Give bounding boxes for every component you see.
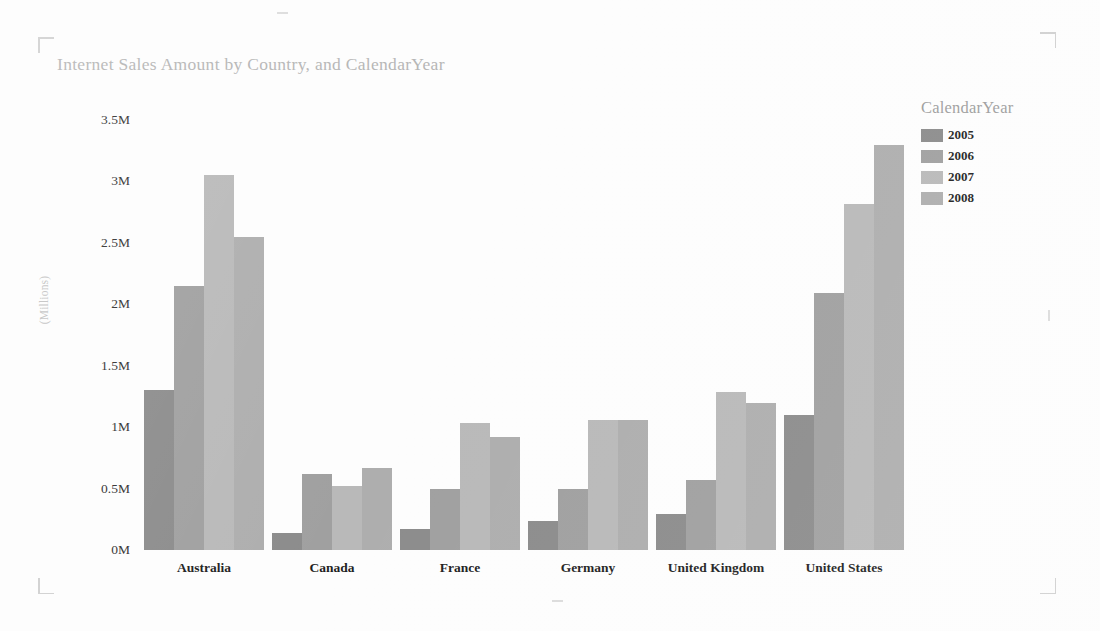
y-axis-tick: 0.5M: [60, 481, 130, 497]
bar-united-states-2005[interactable]: [784, 415, 814, 550]
y-axis-tick: 3.5M: [60, 112, 130, 128]
legend-title: CalendarYear: [921, 98, 1086, 118]
legend-label: 2005: [948, 127, 974, 143]
bar-australia-2008[interactable]: [234, 237, 264, 550]
bar-united-kingdom-2005[interactable]: [656, 514, 686, 550]
y-axis-tick: 1M: [60, 419, 130, 435]
legend: CalendarYear 2005200620072008: [921, 98, 1086, 211]
legend-label: 2006: [948, 148, 974, 164]
legend-items: 2005200620072008: [921, 127, 1086, 206]
bar-canada-2005[interactable]: [272, 533, 302, 550]
y-axis-tick: 0M: [60, 542, 130, 558]
bar-france-2008[interactable]: [490, 437, 520, 550]
edge-tick-bottom: [552, 600, 563, 602]
y-axis-tick: 3M: [60, 173, 130, 189]
crop-mark-top-right: [1040, 32, 1056, 48]
chart-page: Internet Sales Amount by Country, and Ca…: [0, 0, 1100, 631]
chart-title: Internet Sales Amount by Country, and Ca…: [57, 54, 445, 75]
bar-germany-2007[interactable]: [588, 420, 618, 550]
x-axis-label-united-states: United States: [764, 560, 924, 576]
edge-tick-top: [277, 12, 288, 14]
plot-area: AustraliaCanadaFranceGermanyUnited Kingd…: [140, 120, 908, 550]
crop-mark-top-left: [38, 37, 54, 53]
legend-item-2007[interactable]: 2007: [921, 169, 1086, 185]
bar-united-states-2007[interactable]: [844, 204, 874, 550]
bar-group: [652, 120, 780, 550]
crop-mark-bottom-right: [1040, 578, 1056, 594]
bar-united-kingdom-2007[interactable]: [716, 392, 746, 550]
legend-swatch-icon: [921, 171, 943, 184]
bar-united-states-2006[interactable]: [814, 293, 844, 550]
bar-germany-2006[interactable]: [558, 489, 588, 550]
legend-item-2006[interactable]: 2006: [921, 148, 1086, 164]
bar-group: [780, 120, 908, 550]
bar-australia-2007[interactable]: [204, 175, 234, 550]
bar-group: [524, 120, 652, 550]
bar-germany-2008[interactable]: [618, 420, 648, 550]
bar-germany-2005[interactable]: [528, 521, 558, 550]
y-axis-tick: 2.5M: [60, 235, 130, 251]
bar-group: [140, 120, 268, 550]
crop-mark-bottom-left: [38, 578, 54, 594]
bar-australia-2006[interactable]: [174, 286, 204, 550]
y-axis: 3.5M3M2.5M2M1.5M1M0.5M0M: [56, 120, 130, 550]
bar-canada-2006[interactable]: [302, 474, 332, 550]
bar-united-kingdom-2008[interactable]: [746, 403, 776, 550]
bar-france-2005[interactable]: [400, 529, 430, 550]
bar-group: [396, 120, 524, 550]
y-axis-label: (Millions): [38, 240, 50, 360]
legend-item-2008[interactable]: 2008: [921, 190, 1086, 206]
legend-label: 2007: [948, 169, 974, 185]
bar-france-2007[interactable]: [460, 423, 490, 550]
bar-group: [268, 120, 396, 550]
bar-france-2006[interactable]: [430, 489, 460, 550]
legend-label: 2008: [948, 190, 974, 206]
bar-australia-2005[interactable]: [144, 390, 174, 550]
y-axis-tick: 2M: [60, 296, 130, 312]
bar-canada-2008[interactable]: [362, 468, 392, 550]
bar-canada-2007[interactable]: [332, 486, 362, 550]
bar-united-states-2008[interactable]: [874, 145, 904, 550]
bar-united-kingdom-2006[interactable]: [686, 480, 716, 550]
y-axis-tick: 1.5M: [60, 358, 130, 374]
legend-item-2005[interactable]: 2005: [921, 127, 1086, 143]
legend-swatch-icon: [921, 150, 943, 163]
edge-tick-right: [1048, 310, 1050, 321]
legend-swatch-icon: [921, 129, 943, 142]
legend-swatch-icon: [921, 192, 943, 205]
